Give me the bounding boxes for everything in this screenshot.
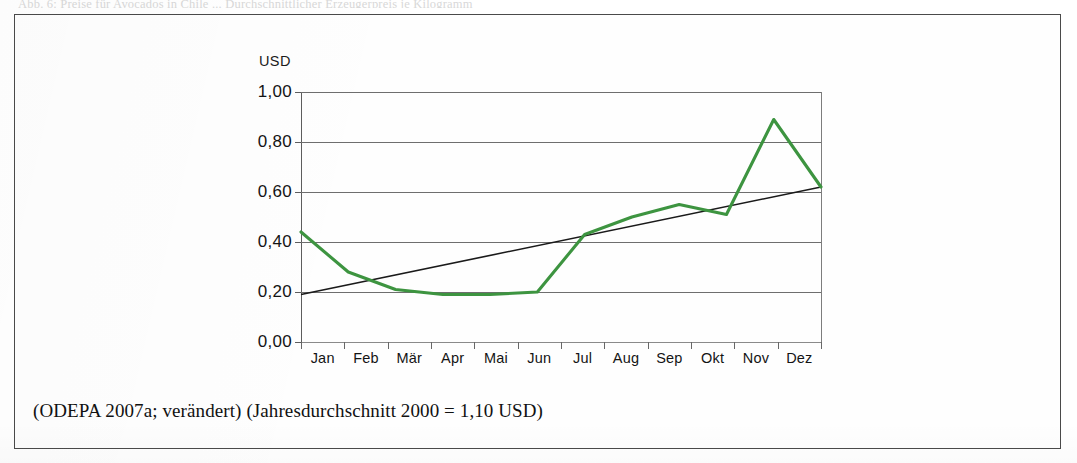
x-tick-label: Mai — [484, 350, 508, 366]
x-tick-mark — [561, 342, 562, 349]
x-tick-label: Mär — [397, 350, 423, 366]
y-tick-label: 0,00 — [258, 332, 292, 352]
plot-area: 1,000,800,600,400,200,00 JanFebMärAprMai… — [301, 92, 821, 342]
x-tick-mark — [691, 342, 692, 349]
figure-frame: USD 1,000,800,600,400,200,00 JanFebMärAp… — [14, 14, 1061, 449]
price-series-line — [301, 120, 821, 295]
line-chart: USD 1,000,800,600,400,200,00 JanFebMärAp… — [15, 15, 1062, 395]
x-tick-mark — [474, 342, 475, 349]
x-tick-mark — [821, 342, 822, 349]
x-tick-mark — [431, 342, 432, 349]
x-tick-mark — [778, 342, 779, 349]
series-lines — [301, 92, 821, 342]
x-tick-label: Aug — [613, 350, 639, 366]
x-tick-mark — [301, 342, 302, 349]
x-tick-label: Feb — [353, 350, 379, 366]
x-tick-label: Apr — [441, 350, 464, 366]
y-tick-label: 0,60 — [258, 182, 292, 202]
y-tick-label: 0,40 — [258, 232, 292, 252]
page-cutoff-text: Abb. 6: Preise für Avocados in Chile ...… — [18, 0, 1058, 8]
x-tick-label: Dez — [786, 350, 812, 366]
x-tick-label: Jun — [527, 350, 551, 366]
x-tick-label: Jul — [573, 350, 592, 366]
y-tick-label: 0,20 — [258, 282, 292, 302]
x-tick-label: Sep — [656, 350, 682, 366]
x-tick-mark — [388, 342, 389, 349]
source-caption: (ODEPA 2007a; verändert) (Jahresdurchsch… — [33, 400, 543, 422]
x-tick-label: Okt — [701, 350, 724, 366]
y-axis-unit-label: USD — [259, 53, 291, 69]
x-tick-mark — [518, 342, 519, 349]
x-tick-mark — [734, 342, 735, 349]
x-tick-label: Nov — [743, 350, 769, 366]
x-tick-mark — [344, 342, 345, 349]
x-tick-label: Jan — [311, 350, 335, 366]
x-tick-mark — [604, 342, 605, 349]
y-tick-label: 0,80 — [258, 132, 292, 152]
plot-right-edge — [821, 92, 822, 342]
x-tick-mark — [648, 342, 649, 349]
trend-line — [301, 187, 821, 295]
y-tick-label: 1,00 — [258, 82, 292, 102]
